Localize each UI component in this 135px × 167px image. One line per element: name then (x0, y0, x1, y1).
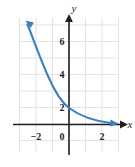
x-axis-label: x (127, 118, 133, 130)
x-tick-label-2: 2 (100, 131, 105, 142)
coordinate-plane-plot: y x −2 0 2 2 4 6 (0, 0, 135, 167)
y-tick-label-6: 6 (60, 36, 65, 47)
y-axis-label: y (71, 2, 77, 14)
graph-figure: y x −2 0 2 2 4 6 (0, 0, 135, 167)
x-tick-label-neg2: −2 (31, 131, 42, 142)
x-tick-label-0: 0 (60, 131, 65, 142)
y-tick-label-2: 2 (60, 102, 65, 113)
y-tick-label-4: 4 (60, 69, 65, 80)
